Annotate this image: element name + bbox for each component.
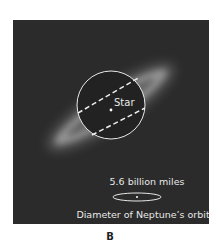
star-dot	[110, 109, 113, 112]
scale-label: 5.6 billion miles	[99, 176, 195, 187]
disk-illustration	[13, 20, 209, 224]
image-panel: Star 5.6 billion miles Diameter of Neptu…	[13, 20, 209, 224]
panel-letter: B	[0, 231, 220, 242]
star-label: Star	[114, 97, 135, 108]
sun-dot	[136, 196, 138, 198]
orbit-label: Diameter of Neptune’s orbit	[73, 209, 209, 220]
